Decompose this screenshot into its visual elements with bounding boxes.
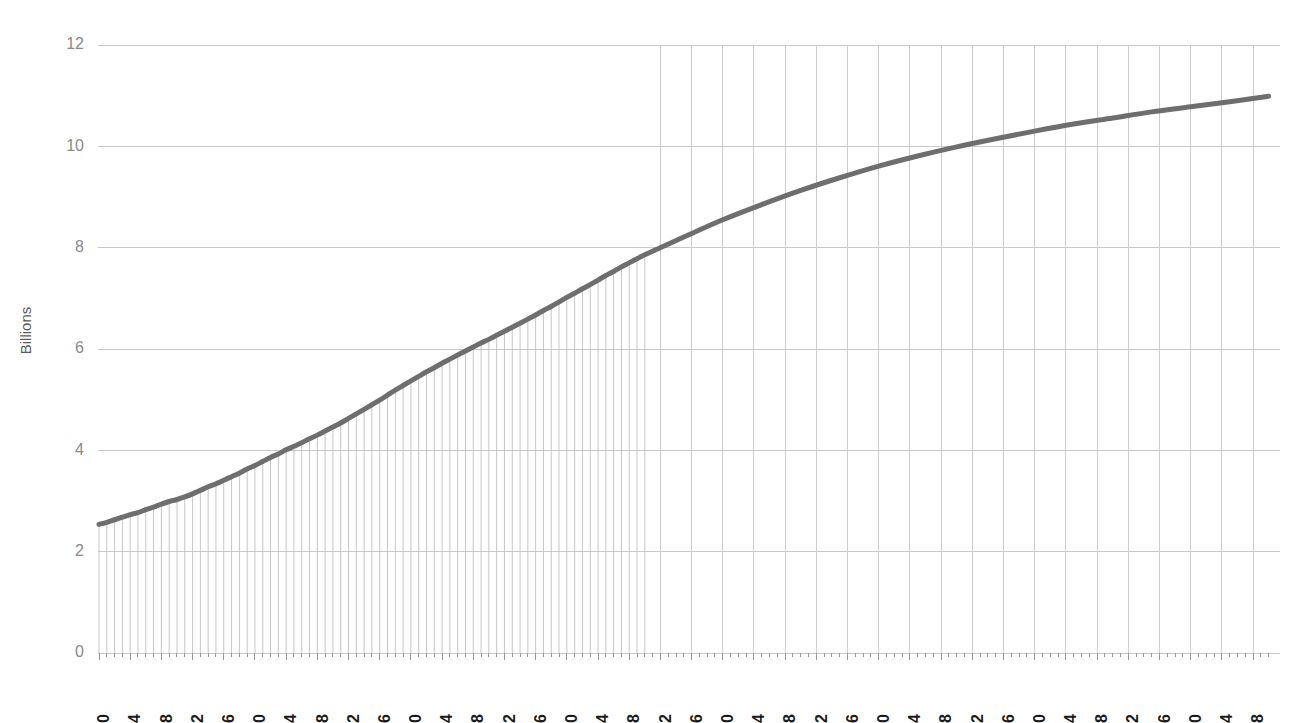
x-tick-label: 2010 [563, 714, 580, 723]
x-tick-label: 2082 [1124, 714, 1141, 723]
y-tick-label: 12 [66, 35, 84, 52]
x-tick-label: 2042 [813, 714, 830, 723]
horizontal-gridlines [98, 45, 1280, 653]
x-tick-label: 2070 [1031, 714, 1048, 723]
x-tick-label: 2062 [969, 714, 986, 723]
x-tick-label: 2050 [875, 714, 892, 723]
x-tick-label: 1978 [314, 714, 331, 723]
population-chart: Billions 024681012 195019541958196219661… [0, 0, 1298, 723]
x-tick-label: 2006 [532, 714, 549, 723]
x-tick-label: 2046 [844, 714, 861, 723]
x-tick-label: 2002 [501, 714, 518, 723]
x-tick-label: 1986 [376, 714, 393, 723]
x-tick-label: 2022 [657, 714, 674, 723]
y-tick-label: 0 [75, 643, 84, 660]
x-tick-label: 1982 [345, 714, 362, 723]
x-tick-label: 2018 [625, 714, 642, 723]
x-tick-label: 1998 [469, 714, 486, 723]
x-tick-label: 2078 [1093, 714, 1110, 723]
x-tick-label: 2058 [937, 714, 954, 723]
x-tick-label: 2014 [594, 714, 611, 723]
y-tick-label: 10 [66, 137, 84, 154]
x-tick-label: 1974 [282, 714, 299, 723]
x-tick-label: 1990 [407, 714, 424, 723]
plot-area: 024681012 195019541958196219661970197419… [0, 0, 1298, 723]
series-line-world-population [99, 96, 1269, 524]
y-tick-label: 4 [75, 441, 84, 458]
x-tick-label: 2054 [906, 714, 923, 723]
x-tick-label: 2038 [781, 714, 798, 723]
x-tick-label: 2030 [719, 714, 736, 723]
x-tick-label: 1994 [438, 714, 455, 723]
x-tick-label: 1958 [158, 714, 175, 723]
x-axis-tick-labels: 1950195419581962196619701974197819821986… [95, 714, 1266, 723]
x-tick-label: 2034 [750, 714, 767, 723]
x-tick-label: 2094 [1218, 714, 1235, 723]
y-axis-tick-labels: 024681012 [66, 35, 84, 660]
x-tick-label: 1954 [126, 714, 143, 723]
y-tick-label: 6 [75, 339, 84, 356]
y-tick-label: 2 [75, 542, 84, 559]
x-tick-label: 2090 [1187, 714, 1204, 723]
x-tick-label: 2098 [1249, 714, 1266, 723]
x-tick-label: 1966 [220, 714, 237, 723]
x-tick-label: 1970 [251, 714, 268, 723]
y-tick-label: 8 [75, 238, 84, 255]
x-tick-label: 2066 [1000, 714, 1017, 723]
x-tick-label: 2074 [1062, 714, 1079, 723]
x-tick-label: 2026 [688, 714, 705, 723]
annual-drop-lines [99, 255, 645, 653]
x-tick-label: 2086 [1156, 714, 1173, 723]
x-tick-label: 1962 [189, 714, 206, 723]
series-world-population [99, 96, 1269, 524]
x-axis-tick-marks [99, 653, 1269, 660]
x-tick-label: 1950 [95, 714, 112, 723]
